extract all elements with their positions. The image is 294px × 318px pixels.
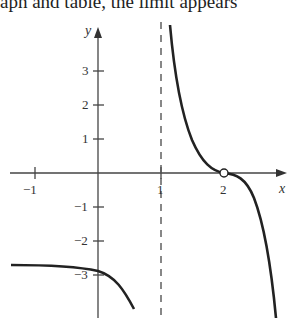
- left-branch-curve: [11, 265, 134, 309]
- y-tick-label: −2: [74, 233, 88, 248]
- y-axis-label: y: [83, 23, 92, 38]
- hole-marker: [220, 169, 228, 177]
- y-tick-label: 2: [82, 97, 89, 112]
- y-tick-label: 1: [82, 131, 89, 146]
- x-tick-label: 1: [157, 182, 164, 197]
- x-axis: [10, 167, 287, 179]
- x-tick-label: 2: [220, 182, 227, 197]
- x-tick-label: −1: [23, 182, 37, 197]
- x-axis-arrow-icon: [276, 169, 287, 177]
- y-axis-arrow-icon: [94, 27, 102, 38]
- y-tick-label: 3: [82, 63, 89, 78]
- y-tick-label: −1: [74, 199, 88, 214]
- function-graph: y x −1 1 2 3 2 1 −1 −2 −3: [0, 0, 294, 318]
- x-axis-label: x: [278, 181, 286, 196]
- y-tick-label: −3: [74, 267, 88, 282]
